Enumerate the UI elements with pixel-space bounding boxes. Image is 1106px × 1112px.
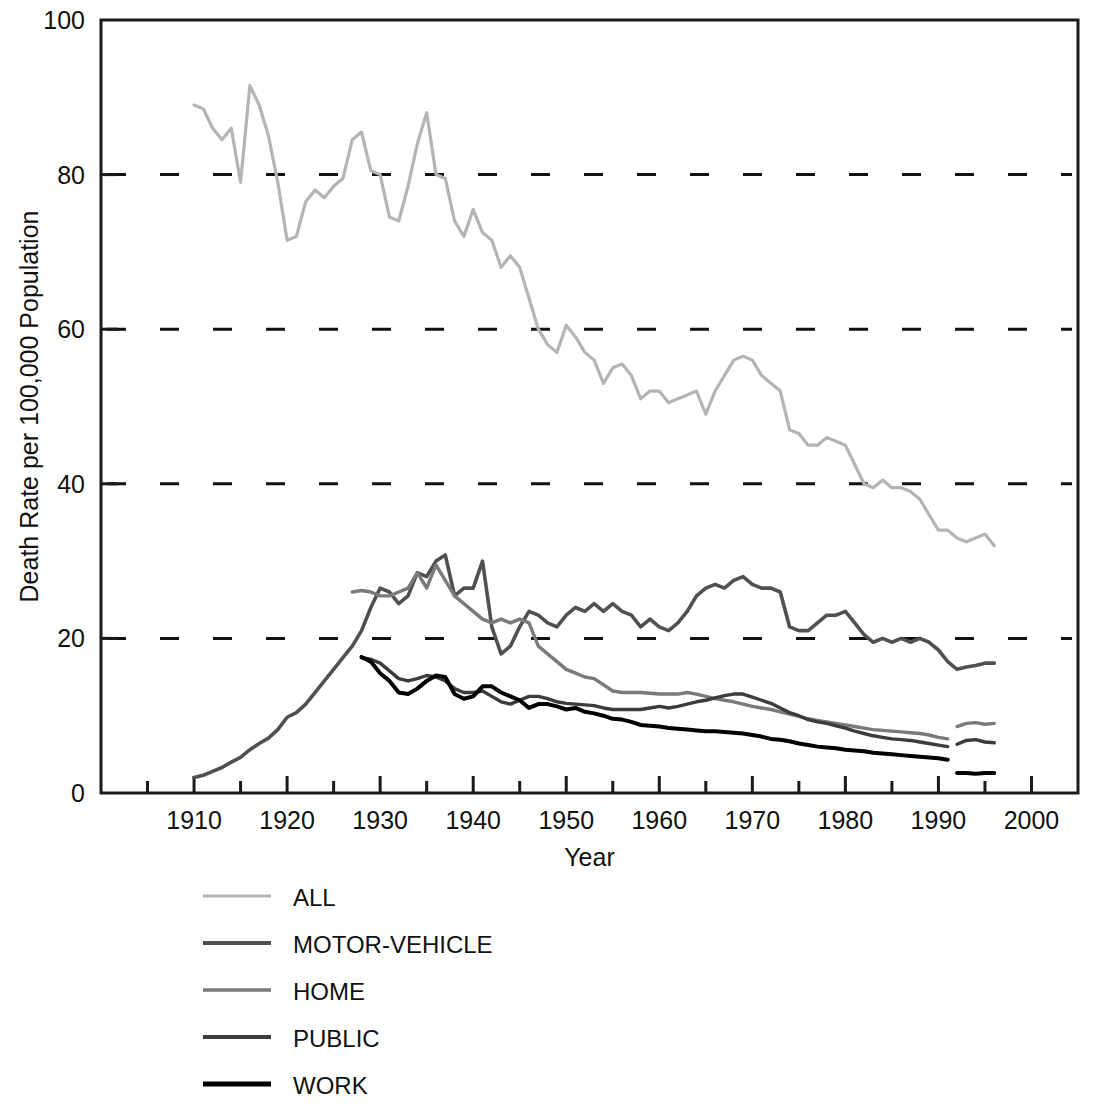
x-tick-label-1920: 1920	[259, 806, 315, 834]
x-tick-label-1940: 1940	[445, 806, 501, 834]
legend-label-work: WORK	[293, 1072, 368, 1099]
x-tick-label-1960: 1960	[631, 806, 687, 834]
series-line-motor-vehicle	[194, 555, 994, 778]
series-line-home	[352, 565, 948, 739]
accidental-death-rate-chart: 0204060801001910192019301940195019601970…	[0, 0, 1106, 1112]
x-tick-label-2000: 2000	[1004, 806, 1060, 834]
legend-label-home: HOME	[293, 978, 365, 1005]
y-tick-label-0: 0	[71, 779, 85, 807]
series-line-home-revised	[957, 723, 994, 727]
series-line-public	[362, 658, 948, 747]
chart-canvas: 0204060801001910192019301940195019601970…	[0, 0, 1106, 1112]
legend-label-motor-vehicle: MOTOR-VEHICLE	[293, 931, 493, 958]
y-tick-label-80: 80	[57, 161, 85, 189]
y-tick-label-100: 100	[43, 6, 85, 34]
y-tick-label-40: 40	[57, 470, 85, 498]
x-tick-label-1910: 1910	[166, 806, 222, 834]
y-tick-label-20: 20	[57, 624, 85, 652]
x-tick-label-1980: 1980	[818, 806, 874, 834]
x-tick-label-1930: 1930	[352, 806, 408, 834]
series-line-work-revised	[957, 773, 994, 774]
series-line-all	[194, 86, 994, 546]
legend-label-all: ALL	[293, 884, 336, 911]
y-axis-title: Death Rate per 100,000 Population	[15, 211, 43, 603]
y-tick-label-60: 60	[57, 315, 85, 343]
series-line-public-revised	[957, 740, 994, 745]
legend-label-public: PUBLIC	[293, 1025, 380, 1052]
x-tick-label-1950: 1950	[538, 806, 594, 834]
x-tick-label-1990: 1990	[911, 806, 967, 834]
x-tick-label-1970: 1970	[725, 806, 781, 834]
legend: ALLMOTOR-VEHICLEHOMEPUBLICWORK	[203, 884, 493, 1099]
x-axis-title: Year	[564, 843, 615, 871]
series-group	[194, 86, 994, 778]
